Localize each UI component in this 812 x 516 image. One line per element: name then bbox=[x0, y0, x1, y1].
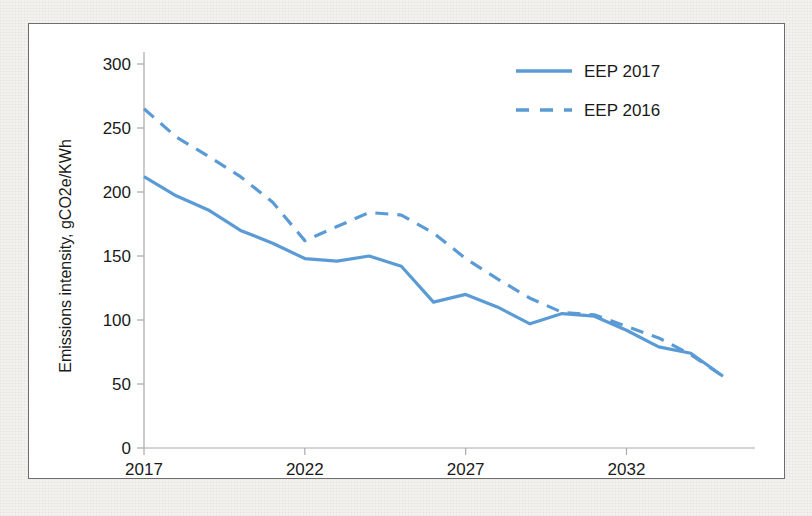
y-axis-ticks: 050100150200250300 bbox=[103, 55, 144, 458]
y-axis-title: Emissions intensity, gCO2e/KWh bbox=[57, 139, 74, 373]
y-tick-label: 250 bbox=[103, 119, 131, 138]
y-tick-label: 100 bbox=[103, 311, 131, 330]
x-tick-label: 2032 bbox=[608, 460, 646, 477]
line-chart: 050100150200250300 2017202220272032 Emis… bbox=[29, 24, 783, 477]
x-axis-ticks: 2017202220272032 bbox=[125, 448, 645, 477]
data-series-group bbox=[144, 109, 723, 377]
y-tick-label: 300 bbox=[103, 55, 131, 74]
legend-label-eep-2016: EEP 2016 bbox=[584, 101, 660, 120]
y-tick-label: 0 bbox=[122, 439, 131, 458]
figure-frame: 050100150200250300 2017202220272032 Emis… bbox=[28, 23, 785, 479]
x-tick-label: 2027 bbox=[447, 460, 485, 477]
y-tick-label: 150 bbox=[103, 247, 131, 266]
x-tick-label: 2022 bbox=[286, 460, 324, 477]
x-tick-label: 2017 bbox=[125, 460, 163, 477]
chart-legend: EEP 2017EEP 2016 bbox=[516, 62, 660, 120]
series-line-eep-2017 bbox=[144, 177, 723, 377]
y-tick-label: 200 bbox=[103, 183, 131, 202]
y-tick-label: 50 bbox=[112, 375, 131, 394]
legend-label-eep-2017: EEP 2017 bbox=[584, 62, 660, 81]
